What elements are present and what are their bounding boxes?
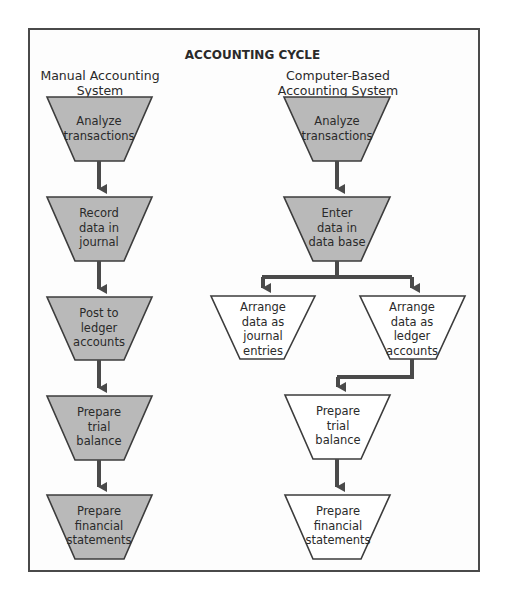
label-line: Analyze [287, 114, 387, 129]
label-line: data base [287, 235, 387, 250]
connector-ledger-to-trial [337, 359, 412, 377]
manual-step-4-label: Prepare trial balance [49, 405, 149, 449]
label-line: balance [49, 434, 149, 449]
label-line: statements [49, 533, 149, 548]
manual-step-5-label: Prepare financial statements [49, 504, 149, 548]
label-line: financial [49, 519, 149, 534]
computer-step-5-label: Prepare trial balance [288, 404, 388, 448]
label-line: ledger [49, 321, 149, 336]
label-line: trial [49, 420, 149, 435]
label-line: data in [287, 221, 387, 236]
label-line: Prepare [288, 504, 388, 519]
computer-step-6-label: Prepare financial statements [288, 504, 388, 548]
label-line: trial [288, 419, 388, 434]
label-line: Prepare [288, 404, 388, 419]
computer-step-3-label: Arrange data as journal entries [213, 300, 313, 358]
label-line: Analyze [49, 114, 149, 129]
label-line: accounts [362, 344, 462, 359]
manual-step-2-label: Record data in journal [49, 206, 149, 250]
label-line: ledger [362, 329, 462, 344]
label-line: financial [288, 519, 388, 534]
label-line: journal [213, 329, 313, 344]
label-line: Record [49, 206, 149, 221]
label-line: transactions [49, 129, 149, 144]
manual-step-1-label: Analyze transactions [49, 114, 149, 143]
label-line: Arrange [362, 300, 462, 315]
label-line: data as [213, 315, 313, 330]
label-line: Enter [287, 206, 387, 221]
label-line: transactions [287, 129, 387, 144]
label-line: Prepare [49, 504, 149, 519]
label-line: balance [288, 433, 388, 448]
computer-step-2-label: Enter data in data base [287, 206, 387, 250]
computer-step-4-label: Arrange data as ledger accounts [362, 300, 462, 358]
label-line: Post to [49, 306, 149, 321]
label-line: accounts [49, 335, 149, 350]
label-line: data in [49, 221, 149, 236]
manual-step-3-label: Post to ledger accounts [49, 306, 149, 350]
label-line: Prepare [49, 405, 149, 420]
label-line: data as [362, 315, 462, 330]
label-line: journal [49, 235, 149, 250]
label-line: Arrange [213, 300, 313, 315]
computer-step-1-label: Analyze transactions [287, 114, 387, 143]
label-line: statements [288, 533, 388, 548]
label-line: entries [213, 344, 313, 359]
